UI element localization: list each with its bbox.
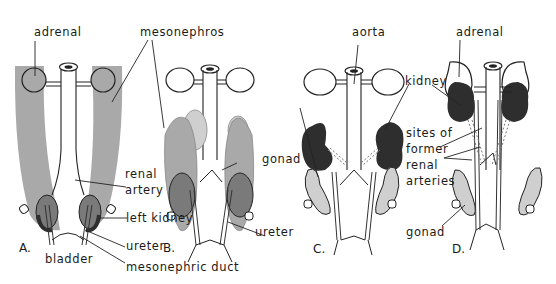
- label-mesonephros: mesonephros: [140, 26, 224, 39]
- panel-c: [302, 67, 404, 255]
- label-renal-artery-line1: renal: [125, 168, 157, 181]
- label-sites-line4: arteries: [406, 175, 455, 188]
- panel-letter-a: A.: [19, 242, 31, 255]
- label-renal-artery-line2: artery: [125, 184, 164, 197]
- panel-letter-c: C.: [313, 243, 325, 256]
- diagram-drawing: [0, 0, 556, 284]
- panel-d: [445, 62, 542, 250]
- label-left-kidney: left kidney: [126, 212, 193, 225]
- panel-letter-b: B.: [163, 242, 175, 255]
- panel-b: [165, 65, 254, 262]
- label-mesonephric-duct: mesonephric duct: [126, 261, 239, 274]
- label-sites-line3: renal: [406, 159, 438, 172]
- kidney-development-diagram: adrenal mesonephros renal artery left ki…: [0, 0, 556, 284]
- label-gonad-d: gonad: [406, 226, 445, 239]
- label-sites-line1: sites of: [406, 127, 452, 140]
- label-adrenal-d: adrenal: [456, 26, 504, 39]
- label-sites-line2: former: [406, 143, 448, 156]
- label-kidney: kidney: [405, 75, 447, 88]
- label-aorta: aorta: [352, 26, 385, 39]
- label-bladder: bladder: [45, 253, 93, 266]
- label-ureter-a: ureter: [126, 240, 165, 253]
- label-gonad-b: gonad: [262, 153, 301, 166]
- panel-letter-d: D.: [452, 243, 465, 256]
- label-ureter-b: ureter: [255, 226, 294, 239]
- label-adrenal-a: adrenal: [34, 26, 82, 39]
